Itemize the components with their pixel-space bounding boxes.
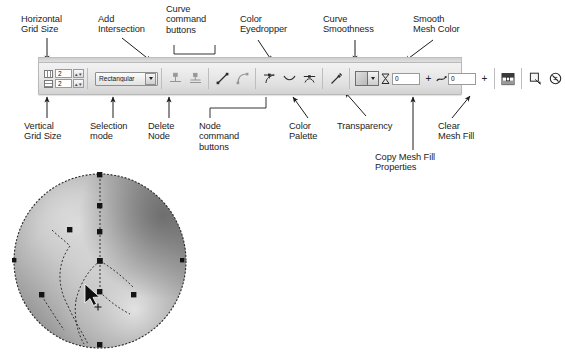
callout-transparency: Transparency <box>337 121 392 131</box>
curve-smoothness-input[interactable] <box>448 73 476 85</box>
callout-smooth-mesh-color: Smooth Mesh Color <box>413 14 460 35</box>
mesh-fill-property-bar: ▴▾ ▴▾ Rectangular <box>38 62 462 95</box>
make-node-symmetrical-button[interactable] <box>300 69 319 88</box>
callout-color-palette: Color Palette <box>289 121 317 142</box>
vertical-grid-size-input[interactable] <box>55 79 72 88</box>
horizontal-grid-size-input[interactable] <box>55 69 72 78</box>
transparency-group <box>380 72 420 86</box>
add-intersection-button[interactable] <box>166 69 185 88</box>
color-swatch[interactable] <box>355 71 368 86</box>
selection-mode-value: Rectangular <box>96 75 145 82</box>
callout-add-intersection: Add Intersection <box>98 14 145 35</box>
chevron-down-icon[interactable] <box>145 73 156 85</box>
smooth-mesh-color-button[interactable] <box>499 69 518 88</box>
curve-to-line-button[interactable] <box>213 69 232 88</box>
callout-curve-smoothness: Curve Smoothness <box>323 14 374 35</box>
callout-color-eyedropper: Color Eyedropper <box>240 14 287 35</box>
horizontal-grid-size-row: ▴▾ <box>44 69 84 78</box>
color-palette-group[interactable] <box>355 71 379 86</box>
make-node-cusp-button[interactable] <box>260 69 279 88</box>
toolbar-separator <box>87 68 88 89</box>
callout-node-command-buttons: Node command buttons <box>199 121 239 152</box>
callout-clear-mesh-fill: Clear Mesh Fill <box>438 121 474 142</box>
toolbar-separator <box>521 68 522 89</box>
toolbar-separator <box>208 68 209 89</box>
copy-mesh-fill-properties-button[interactable] <box>526 69 545 88</box>
color-eyedropper-button[interactable] <box>327 69 346 88</box>
callout-copy-mesh-fill-properties: Copy Mesh Fill Properties <box>375 152 435 173</box>
clear-mesh-fill-button[interactable] <box>546 69 565 88</box>
toolbar-separator <box>349 68 350 89</box>
transparency-plus-button[interactable]: + <box>422 72 435 85</box>
color-palette-dropdown-icon[interactable] <box>368 71 379 86</box>
make-node-smooth-button[interactable] <box>280 69 299 88</box>
curve-to-curve-button[interactable] <box>233 69 252 88</box>
toolbar-separator <box>255 68 256 89</box>
callout-horizontal-grid-size: Horizontal Grid Size <box>21 14 62 35</box>
vertical-grid-size-row: ▴▾ <box>44 79 84 88</box>
vertical-grid-size-stepper[interactable]: ▴▾ <box>73 79 84 88</box>
grid-size-group: ▴▾ ▴▾ <box>44 69 84 88</box>
callout-delete-node: Delete Node <box>148 121 174 142</box>
transparency-input[interactable] <box>392 73 420 85</box>
toolbar-separator <box>322 68 323 89</box>
callout-vertical-grid-size: Vertical Grid Size <box>24 121 61 142</box>
callout-curve-command-buttons: Curve command buttons <box>166 4 206 35</box>
delete-node-button[interactable] <box>186 69 205 88</box>
selection-mode-dropdown[interactable]: Rectangular <box>95 72 158 86</box>
horizontal-grid-icon <box>44 70 53 78</box>
mesh-filled-ellipse[interactable] <box>12 172 188 350</box>
horizontal-grid-size-stepper[interactable]: ▴▾ <box>73 69 84 78</box>
curve-smoothness-plus-button[interactable]: + <box>478 72 491 85</box>
toolbar-separator <box>494 68 495 89</box>
callout-selection-mode: Selection mode <box>90 121 127 142</box>
curve-smoothness-group <box>436 72 476 86</box>
vertical-grid-icon <box>44 80 53 88</box>
transparency-icon <box>380 72 391 85</box>
toolbar-separator <box>161 68 162 89</box>
curve-smoothness-icon <box>436 72 447 85</box>
